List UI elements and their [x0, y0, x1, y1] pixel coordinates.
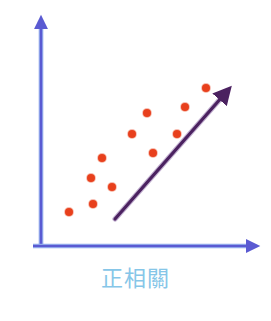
scatter-point: [89, 200, 97, 208]
scatter-plot-canvas: [0, 0, 271, 321]
scatter-figure: 正相關: [0, 0, 271, 321]
scatter-point: [128, 130, 136, 138]
scatter-point: [181, 103, 189, 111]
scatter-point: [108, 183, 116, 191]
scatter-point: [143, 109, 151, 117]
trend-line: [115, 97, 222, 219]
scatter-point: [202, 84, 210, 92]
scatter-point: [65, 208, 73, 216]
scatter-point: [173, 130, 181, 138]
scatter-point: [87, 174, 95, 182]
scatter-point: [149, 149, 157, 157]
scatter-point: [98, 154, 106, 162]
